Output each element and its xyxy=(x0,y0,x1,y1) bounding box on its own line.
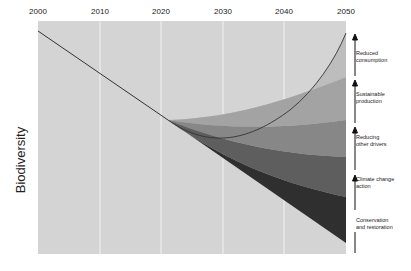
x-tick-2040: 2040 xyxy=(275,7,293,16)
y-axis-label: Biodiversity xyxy=(13,127,28,193)
x-tick-2050: 2050 xyxy=(337,7,355,16)
x-tick-2030: 2030 xyxy=(214,7,232,16)
legend-reducing-other-drivers: Reducing other drivers xyxy=(356,134,411,147)
legend-line: action xyxy=(356,183,411,190)
x-tick-2000: 2000 xyxy=(29,7,47,16)
legend-reduced-consumption: Reduced consumption xyxy=(356,50,411,63)
legend-sustainable-production: Sustainable production xyxy=(356,91,411,104)
chart xyxy=(0,0,411,271)
legend-line: other drivers xyxy=(356,141,411,148)
x-tick-2010: 2010 xyxy=(91,7,109,16)
legend-line: consumption xyxy=(356,57,411,64)
legend-line: production xyxy=(356,98,411,105)
x-tick-2020: 2020 xyxy=(152,7,170,16)
legend-conservation-restoration: Conservation and restoration xyxy=(356,217,411,230)
legend-climate-change-action: Climate change action xyxy=(356,176,411,189)
legend-line: and restoration xyxy=(356,224,411,231)
